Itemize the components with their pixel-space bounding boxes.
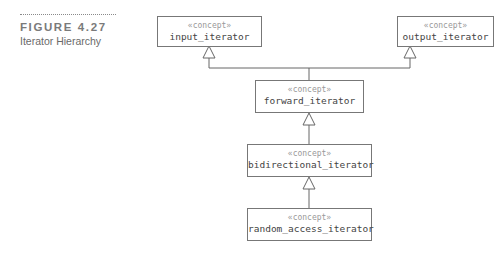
concept-name: bidirectional_iterator [248, 159, 371, 171]
concept-name: forward_iterator [256, 95, 363, 107]
generalization-arrow-icon [303, 113, 315, 125]
concept-name: input_iterator [158, 31, 261, 43]
node-input-iterator: «concept» input_iterator [157, 16, 262, 47]
stereotype-label: «concept» [248, 213, 371, 223]
stereotype-label: «concept» [256, 85, 363, 95]
stereotype-label: «concept» [398, 21, 493, 31]
stereotype-label: «concept» [248, 149, 371, 159]
node-output-iterator: «concept» output_iterator [397, 16, 494, 47]
generalization-arrow-icon [404, 46, 416, 58]
concept-name: output_iterator [398, 31, 493, 43]
concept-name: random_access_iterator [248, 223, 371, 235]
generalization-arrow-icon [203, 46, 215, 58]
stereotype-label: «concept» [158, 21, 261, 31]
node-random-access-iterator: «concept» random_access_iterator [247, 208, 372, 241]
node-bidirectional-iterator: «concept» bidirectional_iterator [247, 144, 372, 177]
generalization-arrow-icon [303, 177, 315, 189]
node-forward-iterator: «concept» forward_iterator [255, 80, 364, 113]
